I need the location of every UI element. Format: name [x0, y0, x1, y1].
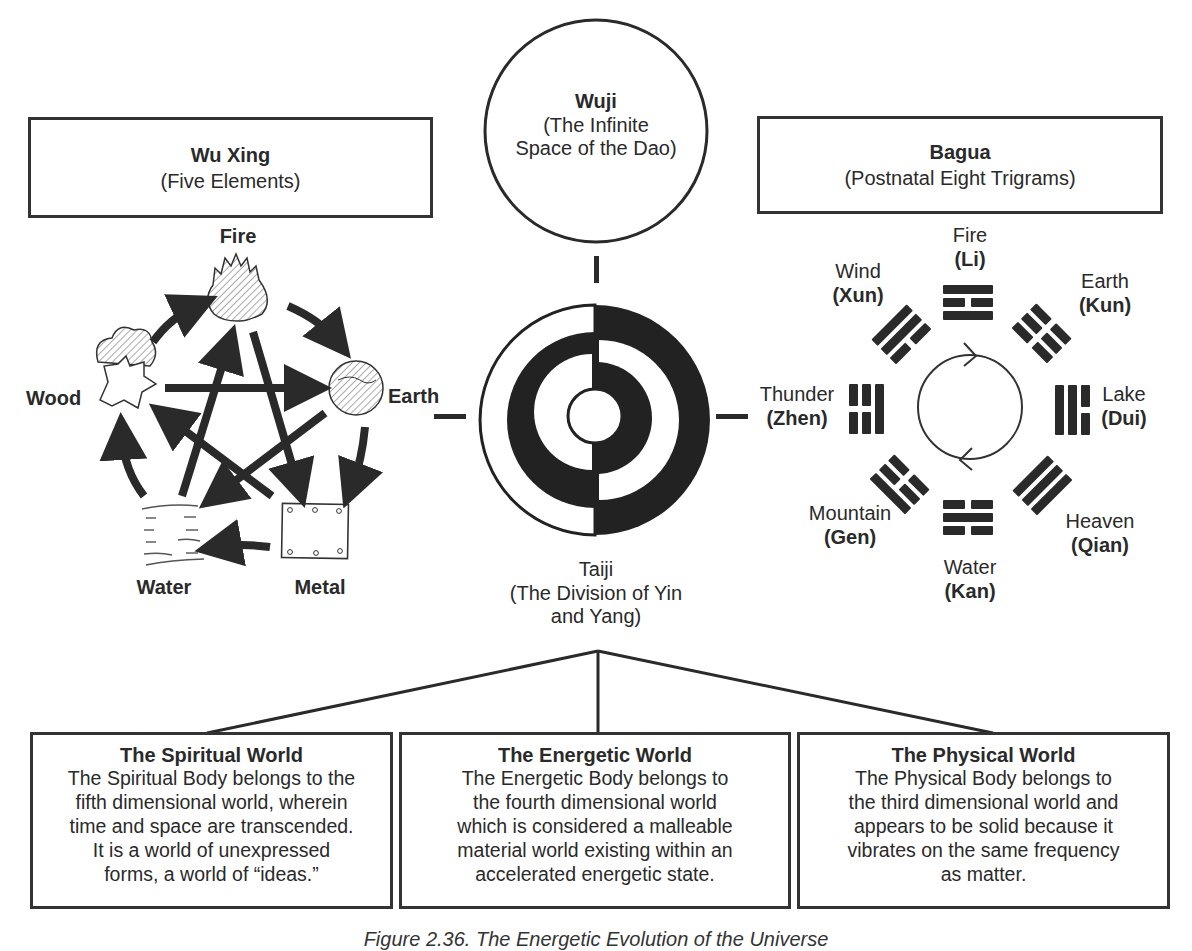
earth-icon [329, 361, 383, 415]
taiji-line1: (The Division of Yin [480, 582, 712, 606]
wuji-label: Wuji (The Infinite Space of the Dao) [496, 90, 696, 161]
world-line: fifth dimensional world, wherein [33, 791, 390, 815]
trigram-name: Mountain [795, 502, 905, 526]
trigram-label-earth: Earth (Kun) [1065, 270, 1145, 317]
world-line: It is a world of unexpressed [33, 839, 390, 863]
wuxing-title: Wu Xing [191, 142, 271, 168]
trigram-label-mountain: Mountain (Gen) [795, 502, 905, 549]
trigram-label-lake: Lake (Dui) [1094, 383, 1154, 430]
trigram-pinyin: (Gen) [795, 526, 905, 550]
trigram-label-wind: Wind (Xun) [818, 260, 898, 307]
water-icon [142, 505, 204, 565]
trigram-label-water: Water (Kan) [930, 556, 1010, 603]
trigram-name: Thunder [752, 383, 842, 407]
trigram-label-thunder: Thunder (Zhen) [752, 383, 842, 430]
trigram-dui-icon [1055, 385, 1090, 435]
trigram-pinyin: (Qian) [1055, 534, 1145, 558]
world-line: as matter. [800, 863, 1167, 887]
world-line: vibrates on the same frequency [800, 839, 1167, 863]
taiji-label: Taiji (The Division of Yin and Yang) [480, 558, 712, 629]
trigram-name: Lake [1094, 383, 1154, 407]
spiritual-world-box: The Spiritual World The Spiritual Body b… [30, 732, 393, 909]
wuji-taiji-connector [594, 256, 599, 283]
energetic-world-box: The Energetic World The Energetic Body b… [399, 732, 791, 909]
element-label-metal: Metal [285, 576, 355, 600]
wuxing-subtitle: (Five Elements) [160, 168, 300, 194]
taiji-line2: and Yang) [480, 605, 712, 629]
trigram-pinyin: (Dui) [1094, 407, 1154, 431]
world-line: forms, a world of “ideas.” [33, 863, 390, 887]
trigram-name: Water [930, 556, 1010, 580]
trigram-kun-icon [1012, 303, 1072, 363]
trigram-pinyin: (Kan) [930, 580, 1010, 604]
controlling-cycle-arrows [165, 332, 325, 496]
wuxing-title-box: Wu Xing (Five Elements) [28, 117, 433, 218]
world-line: the fourth dimensional world [402, 791, 788, 815]
world-title: The Energetic World [402, 743, 788, 767]
wuxing-taiji-connector [434, 414, 466, 419]
trigram-qian-icon [1012, 455, 1072, 515]
cycle-circle [918, 355, 1022, 459]
world-line: the third dimensional world and [800, 791, 1167, 815]
world-line: The Spiritual Body belongs to the [33, 767, 390, 791]
world-title: The Spiritual World [33, 743, 390, 767]
element-label-water: Water [124, 576, 204, 600]
bagua-diagram [849, 285, 1090, 535]
trigram-pinyin: (Zhen) [752, 407, 842, 431]
bagua-title: Bagua [929, 139, 990, 165]
element-label-earth: Earth [388, 385, 458, 409]
wuji-title: Wuji [496, 90, 696, 114]
taiji-symbol [480, 305, 710, 535]
trigram-li-icon [943, 285, 993, 320]
taiji-title: Taiji [480, 558, 712, 582]
world-line: material world existing within an [402, 839, 788, 863]
trigram-name: Wind [818, 260, 898, 284]
world-tree-lines [207, 651, 993, 733]
trigram-pinyin: (Xun) [818, 284, 898, 308]
element-label-wood: Wood [26, 387, 96, 411]
figure-caption: Figure 2.36. The Energetic Evolution of … [0, 928, 1192, 951]
taiji-bagua-connector [716, 414, 748, 419]
trigram-name: Earth [1065, 270, 1145, 294]
wuji-line1: (The Infinite [496, 114, 696, 138]
wuxing-diagram [97, 254, 383, 565]
wuji-line2: Space of the Dao) [496, 137, 696, 161]
element-label-fire: Fire [208, 225, 268, 249]
fire-icon [208, 254, 268, 321]
world-line: accelerated energetic state. [402, 863, 788, 887]
trigram-zhen-icon [849, 384, 884, 434]
trigram-label-fire: Fire (Li) [935, 224, 1005, 271]
world-line: appears to be solid because it [800, 815, 1167, 839]
trigram-pinyin: (Li) [935, 248, 1005, 272]
wood-icon [97, 327, 156, 408]
world-line: The Energetic Body belongs to [402, 767, 788, 791]
trigram-kan-icon [943, 500, 993, 535]
trigram-pinyin: (Kun) [1065, 294, 1145, 318]
world-line: time and space are transcended. [33, 815, 390, 839]
trigram-name: Heaven [1055, 510, 1145, 534]
world-line: which is considered a malleable [402, 815, 788, 839]
bagua-title-box: Bagua (Postnatal Eight Trigrams) [757, 116, 1163, 214]
metal-icon [282, 503, 349, 558]
bagua-subtitle: (Postnatal Eight Trigrams) [844, 165, 1075, 191]
trigram-xun-icon [871, 304, 931, 364]
world-title: The Physical World [800, 743, 1167, 767]
world-line: The Physical Body belongs to [800, 767, 1167, 791]
trigram-label-heaven: Heaven (Qian) [1055, 510, 1145, 557]
trigram-name: Fire [935, 224, 1005, 248]
physical-world-box: The Physical World The Physical Body bel… [797, 732, 1170, 909]
